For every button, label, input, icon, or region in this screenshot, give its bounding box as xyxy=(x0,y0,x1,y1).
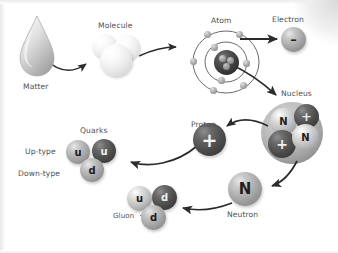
core-nucleon-3 xyxy=(223,63,230,70)
label-proton: Proton xyxy=(191,121,216,129)
label-gluon: Gluon xyxy=(113,212,134,219)
atom-electron-inner-2 xyxy=(243,60,250,67)
atom-electron-outer-1 xyxy=(204,31,211,38)
arrow-neutron-to-quarks xyxy=(183,203,232,210)
electron-symbol: – xyxy=(281,27,306,54)
arrow-molecule-to-atom xyxy=(139,47,176,56)
electron-sphere: – xyxy=(281,27,306,52)
atom-electron-inner-3 xyxy=(218,77,225,84)
atom-core xyxy=(214,50,239,75)
molecule-sphere-front xyxy=(100,44,132,76)
label-neutron: Neutron xyxy=(227,211,258,219)
label-quarks: Quarks xyxy=(80,127,108,135)
label-molecule: Molecule xyxy=(98,22,133,30)
label-electron: Electron xyxy=(272,16,304,24)
label-nucleus: Nucleus xyxy=(281,90,312,98)
atom-electron-inner-1 xyxy=(211,44,218,51)
arrow-nucleus-to-neutron xyxy=(272,161,297,186)
neutron-sphere: N xyxy=(228,172,262,206)
arrow-proton-to-quarks xyxy=(131,146,197,165)
atom-electron-outer-2 xyxy=(236,31,243,38)
atom-electron-outer-4 xyxy=(210,87,217,94)
neutron-quark-d-2: d xyxy=(141,205,166,230)
core-nucleon-1 xyxy=(219,55,226,62)
label-atom: Atom xyxy=(211,17,231,25)
proton-quark-d: d xyxy=(80,158,104,182)
quark-symbol: d xyxy=(141,205,166,230)
label-matter: Matter xyxy=(23,83,49,91)
atom-electron-outer-3 xyxy=(190,58,197,65)
label-down-type: Down-type xyxy=(18,170,60,178)
diagram-canvas: – N + + N + N u u d u d d Matter Molecul… xyxy=(0,0,338,253)
neutron-symbol: N xyxy=(228,172,262,206)
nucleus-particle-symbol: N xyxy=(292,124,319,151)
quark-symbol: d xyxy=(80,158,104,182)
atom-electron-outer-5 xyxy=(240,82,247,89)
arrow-nucleus-to-proton xyxy=(227,120,268,126)
label-up-type: Up-type xyxy=(25,148,56,156)
nucleus-particle-N-2: N xyxy=(292,124,319,151)
matter-droplet-shape xyxy=(20,16,54,76)
